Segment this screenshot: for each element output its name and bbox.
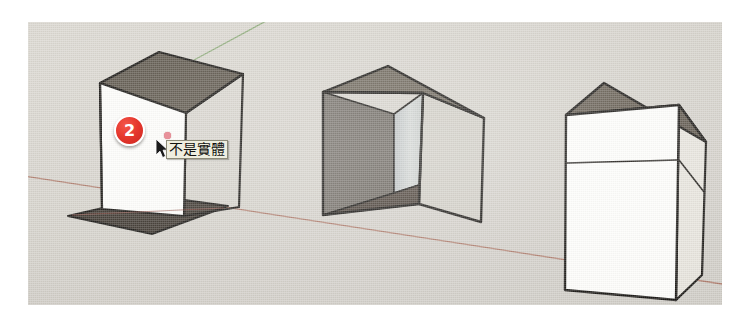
modelling-viewport[interactable]: 2 不是實體 — [28, 22, 722, 305]
callout-badge-2[interactable]: 2 — [114, 115, 145, 146]
tooltip-not-solid: 不是實體 — [166, 140, 228, 159]
box3-front-face — [565, 105, 679, 300]
screenshot-root: 2 不是實體 — [0, 0, 741, 325]
box-solid[interactable] — [565, 83, 706, 300]
scene-svg — [28, 22, 722, 305]
